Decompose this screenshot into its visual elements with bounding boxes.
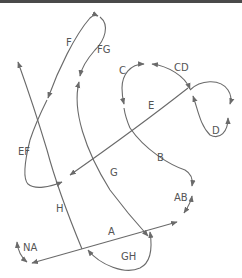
label-fg: FG — [97, 44, 111, 55]
label-ef: EF — [18, 146, 30, 157]
label-c: C — [119, 65, 126, 76]
knot-diagram: F FG C CD E D B EF G AB H A NA GH — [0, 0, 242, 278]
label-e: E — [148, 100, 154, 111]
segment-f — [48, 15, 98, 98]
label-cd: CD — [174, 62, 189, 73]
label-d: D — [212, 125, 220, 136]
label-f: F — [66, 37, 72, 48]
segment-d — [193, 96, 228, 136]
label-na: NA — [23, 242, 37, 253]
label-ab: AB — [174, 192, 188, 203]
segment-e — [70, 88, 188, 175]
segment-c-lower — [124, 108, 130, 128]
label-g: G — [110, 167, 118, 178]
segment-a — [32, 222, 177, 263]
segment-g — [77, 82, 148, 236]
label-b: B — [157, 152, 164, 163]
label-a: A — [108, 226, 115, 237]
segment-d-top — [190, 82, 231, 104]
label-h: H — [56, 203, 64, 214]
label-gh: GH — [121, 251, 136, 262]
